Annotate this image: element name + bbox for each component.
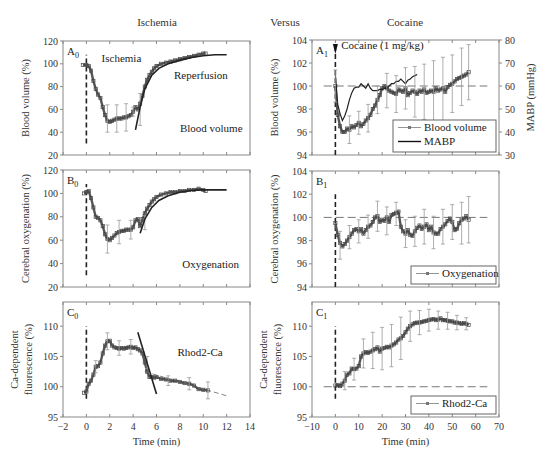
y-tick-label: 100 [292,381,307,392]
y-tick-label: 110 [43,321,58,332]
header-cocaine: Cocaine [387,16,423,28]
x-tick-label: −2 [58,421,69,432]
y-tick-label: 96 [297,127,307,138]
injection-arrow-icon [333,44,338,54]
legend-item-label: MABP [424,135,455,147]
data-series-line [335,318,468,386]
annotation-text: Cocaine (1 mg/kg) [341,39,424,52]
y-right-tick-label: 60 [505,81,515,92]
x-tick-label: −10 [304,421,320,432]
y-tick-label: 98 [297,104,307,115]
x-tick-label: 14 [245,421,255,432]
y-right-tick-label: 30 [505,150,515,161]
x-tick-label: 2 [107,421,112,432]
y-right-tick-label: 50 [505,104,515,115]
y-axis-label: Ca-dependent [9,330,20,388]
annotation-text: Oxygenation [182,258,239,270]
fit-line [138,332,157,394]
y-axis-label: Blood volume (%) [269,58,281,137]
y-tick-label: 102 [292,58,307,69]
annotation-text: Rhod2-Ca [178,346,223,358]
annotation-text: Ischemia [102,52,142,64]
figure-canvas: Ischemia Versus Cocaine 20406080100120Bl… [0,0,547,468]
y-tick-label: 20 [48,282,58,293]
panel-label: B0 [67,174,78,189]
y-tick-label: 100 [292,81,307,92]
legend: Rhod2-Ca [411,396,496,414]
data-series-line [84,189,206,240]
y-tick-label: 20 [48,150,58,161]
x-tick-label: 8 [177,421,182,432]
x-tick-label: 40 [424,421,434,432]
fit-line [135,55,226,130]
y-tick-label: 60 [48,235,58,246]
x-tick-label: 4 [131,421,136,432]
annotation-text: Reperfusion [174,69,228,81]
x-tick-label: 60 [471,421,481,432]
legend: Blood volumeMABP [393,120,496,152]
panel-b0: 20406080100120Cerebral oxygenation (%)B0… [20,165,250,293]
header-versus: Versus [270,16,299,28]
data-series-line [83,54,206,122]
panel-label: C0 [67,306,78,321]
y-right-tick-label: 80 [505,35,515,46]
panel-c0: −20246810121495100105110Ca-dependentfluo… [9,302,255,448]
y-tick-label: 104 [292,166,307,177]
y-axis-label: Cerebral oxygenation (%) [20,173,32,283]
x-tick-label: 12 [222,421,232,432]
y-tick-label: 94 [297,150,307,161]
legend-marker-icon [426,402,429,405]
plot-frame [63,302,250,417]
y-axis-label: fluorescence (%) [23,323,35,395]
y-tick-label: 100 [43,58,58,69]
panels-group: 20406080100120Blood volume (%)A0Ischemia… [9,35,537,449]
y-right-tick-label: 40 [505,127,515,138]
y-tick-label: 104 [292,35,307,46]
y-tick-label: 80 [48,81,58,92]
x-tick-label: 30 [401,421,411,432]
y-right-tick-label: 70 [505,58,515,69]
y-tick-label: 95 [297,412,307,423]
legend: Oxygenation [411,266,499,284]
legend-item-label: Rhod2-Ca [442,397,487,409]
fit-line [140,190,226,233]
panel-label: A0 [67,45,79,60]
x-tick-label: 0 [333,421,338,432]
legend-item-label: Blood volume [424,121,487,133]
panel-label: B1 [316,175,327,190]
legend-marker-icon [426,272,429,275]
plot-frame [63,41,250,155]
y-tick-label: 120 [43,165,58,176]
x-tick-label: 10 [354,421,364,432]
x-tick-label: 50 [447,421,457,432]
y-axis-label: fluorescence (%) [272,323,284,395]
y-tick-label: 40 [48,258,58,269]
y-tick-label: 96 [297,258,307,269]
panel-label: A1 [316,44,328,59]
x-axis-label: Time (min) [133,436,181,448]
y-tick-label: 80 [48,211,58,222]
annotation-text: Blood volume [180,122,243,134]
y-axis-label: Cerebral oxygenation (%) [269,174,281,284]
y-tick-label: 100 [292,212,307,223]
y-tick-label: 95 [48,412,58,423]
y-tick-label: 94 [297,282,307,293]
y-tick-label: 120 [43,36,58,47]
y-tick-label: 105 [43,351,58,362]
y-tick-label: 102 [292,189,307,200]
x-tick-label: 20 [377,421,387,432]
fit-line [145,372,227,396]
panel-a1: 949698100102104304050607080MABP (mmHg)Bl… [269,35,537,161]
x-tick-label: 0 [84,421,89,432]
y-tick-label: 110 [292,321,307,332]
x-tick-label: 10 [198,421,208,432]
y-axis-label: Ca-dependent [258,330,269,388]
y-right-axis-label: MABP (mmHg) [525,63,537,132]
panel-c1: −1001020304050607095100105110Ca-dependen… [258,302,504,448]
panel-label: C1 [316,306,327,321]
panel-b1: 949698100102104Cerebral oxygenation (%)B… [269,166,499,293]
x-tick-label: 6 [154,421,159,432]
y-tick-label: 105 [292,351,307,362]
header-ischemia: Ischemia [137,16,177,28]
y-axis-label: Blood volume (%) [20,58,32,137]
